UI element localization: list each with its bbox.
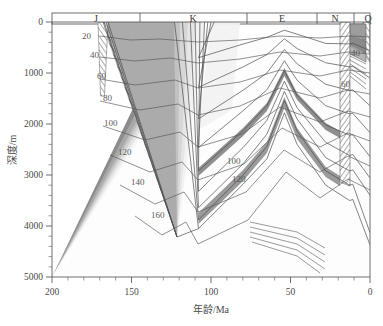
isotherm-label-60: 60 bbox=[97, 71, 107, 81]
y-tick-2000: 2000 bbox=[24, 119, 43, 129]
burial-history-figure: J K E N Q bbox=[0, 0, 383, 326]
chart-canvas: J K E N Q bbox=[0, 0, 383, 326]
x-tick-200: 200 bbox=[45, 287, 60, 297]
y-tick-1000: 1000 bbox=[24, 68, 43, 78]
isotherm-label-20: 20 bbox=[82, 31, 92, 41]
isotherm-label-40: 40 bbox=[90, 50, 100, 60]
x-tick-50: 50 bbox=[286, 287, 296, 297]
isotherm-label-60-right: 60 bbox=[341, 79, 351, 89]
x-tick-150: 150 bbox=[124, 287, 139, 297]
y-tick-5000: 5000 bbox=[24, 272, 43, 282]
y-tick-4000: 4000 bbox=[24, 221, 43, 231]
isotherm-label-100-right: 100 bbox=[227, 156, 241, 166]
y-tick-3000: 3000 bbox=[24, 170, 43, 180]
x-tick-0: 0 bbox=[368, 287, 373, 297]
isotherm-label-100: 100 bbox=[104, 118, 118, 128]
isotherm-label-120: 120 bbox=[118, 147, 132, 157]
x-axis-label: 年龄/Ma bbox=[193, 303, 230, 315]
y-tick-0: 0 bbox=[38, 17, 43, 27]
isotherm-label-160: 160 bbox=[151, 210, 165, 220]
isotherm-label-80: 80 bbox=[103, 93, 113, 103]
isotherm-label-120-right: 120 bbox=[232, 174, 246, 184]
x-tick-100: 100 bbox=[204, 287, 219, 297]
isotherm-label-140: 140 bbox=[131, 177, 145, 187]
isotherm-label-40-right: 40 bbox=[351, 48, 361, 58]
y-axis-label: 深度/m bbox=[6, 135, 18, 166]
neogene-hatch-wedge-left bbox=[340, 22, 350, 186]
